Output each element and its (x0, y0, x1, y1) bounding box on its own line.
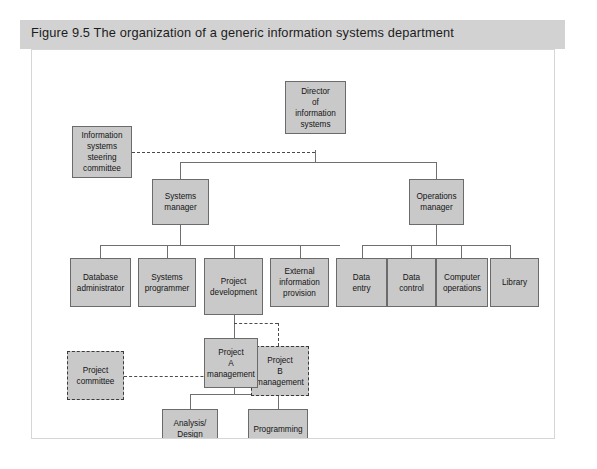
connector-director-bus (180, 162, 436, 163)
node-project-a-management[interactable]: Project A management (204, 338, 258, 388)
org-chart-canvas: Director of information systems Informat… (31, 49, 555, 439)
node-label: Data entry (352, 272, 370, 294)
connector-operations-manager-bus (362, 245, 510, 246)
node-data-entry[interactable]: Data entry (336, 258, 387, 307)
node-label: Library (502, 277, 527, 288)
node-label: Data control (399, 272, 424, 294)
node-project-committee[interactable]: Project committee (67, 351, 124, 400)
node-information-systems-steering-committee[interactable]: Information systems steering committee (72, 126, 132, 178)
node-project-b-management[interactable]: Project B management (251, 346, 309, 396)
connector-drop-operations-manager (436, 162, 437, 179)
connector-project-b-dashed-h (234, 323, 278, 324)
node-label: Project committee (77, 365, 115, 387)
node-label: External information provision (279, 266, 320, 299)
figure-caption: Figure 9.5 The organization of a generic… (31, 25, 454, 40)
connector-drop-project-development (234, 245, 235, 258)
connector-drop-computer-operations (461, 245, 462, 258)
node-operations-manager[interactable]: Operations manager (409, 179, 464, 225)
node-label: Systems programmer (145, 272, 190, 294)
connector-drop-data-entry (362, 245, 363, 258)
node-analysis-design[interactable]: Analysis/ Design (162, 409, 218, 439)
connector-project-development-to-a (234, 315, 235, 338)
node-programming[interactable]: Programming (248, 409, 308, 439)
node-systems-programmer[interactable]: Systems programmer (138, 258, 196, 307)
connector-director-steering-dashed (132, 152, 315, 153)
node-label: Systems manager (164, 191, 196, 213)
node-label: Operations manager (416, 191, 456, 213)
node-database-administrator[interactable]: Database administrator (70, 258, 131, 307)
node-project-development[interactable]: Project development (204, 258, 263, 315)
node-label: Information systems steering committee (82, 130, 123, 174)
connector-project-b-dashed-v (278, 323, 279, 346)
node-library[interactable]: Library (490, 258, 539, 307)
connector-drop-systems-manager (180, 162, 181, 179)
connector-systems-manager-bus (100, 245, 340, 246)
connector-drop-programming (278, 394, 279, 409)
connector-drop-systems-programmer (167, 245, 168, 258)
node-label: Computer operations (443, 272, 481, 294)
figure-container: Figure 9.5 The organization of a generic… (20, 20, 565, 448)
connector-drop-analysis-design (190, 394, 191, 409)
connector-operations-manager-stem (436, 225, 437, 245)
node-external-information-provision[interactable]: External information provision (270, 258, 329, 307)
connector-director-stem (315, 150, 316, 162)
node-label: Project B management (256, 355, 304, 388)
connector-drop-external-information-provision (300, 245, 301, 258)
node-computer-operations[interactable]: Computer operations (436, 258, 488, 307)
node-label: Project development (210, 276, 257, 298)
connector-drop-library (510, 245, 511, 258)
connector-drop-data-control (411, 245, 412, 258)
node-label: Project A management (207, 347, 255, 380)
node-director-of-information-systems[interactable]: Director of information systems (285, 81, 346, 134)
node-label: Database administrator (77, 272, 124, 294)
connector-drop-database-administrator (100, 245, 101, 258)
node-label: Director of information systems (295, 86, 336, 130)
connector-systems-manager-stem (180, 225, 181, 245)
node-label: Analysis/ Design (174, 418, 207, 439)
figure-caption-bar: Figure 9.5 The organization of a generic… (20, 20, 565, 49)
node-systems-manager[interactable]: Systems manager (152, 179, 209, 225)
node-label: Programming (253, 424, 302, 435)
node-data-control[interactable]: Data control (387, 258, 436, 307)
